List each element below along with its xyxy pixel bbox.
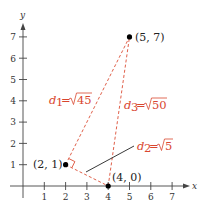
d2-leader-line — [86, 146, 134, 172]
svg-text:4: 4 — [10, 96, 16, 106]
svg-text:1: 1 — [41, 192, 47, 202]
point-5-7 — [127, 34, 132, 39]
distance-diagram: x y 1 2 3 4 5 6 7 1 2 3 4 5 6 7 — [0, 0, 201, 211]
y-axis-label: y — [19, 10, 26, 20]
svg-text:6: 6 — [148, 192, 154, 202]
svg-text:3: 3 — [10, 117, 16, 127]
x-axis-arrow-icon — [183, 184, 190, 189]
svg-text:3: 3 — [84, 192, 90, 202]
y-axis-arrow-icon — [21, 23, 26, 30]
point-2-1 — [63, 162, 68, 167]
svg-text:6: 6 — [10, 54, 16, 64]
axes — [10, 27, 186, 198]
x-axis-label: x — [192, 181, 197, 191]
point-label-5-7: (5, 7) — [135, 31, 165, 44]
svg-text:50: 50 — [152, 98, 167, 112]
svg-text:=: = — [61, 93, 71, 107]
distance-segments — [66, 37, 130, 186]
point-label-4-0: (4, 0) — [112, 171, 142, 184]
point-label-2-1: (2, 1) — [33, 158, 63, 171]
svg-text:5: 5 — [165, 139, 172, 153]
svg-text:1: 1 — [10, 160, 16, 170]
svg-text:7: 7 — [10, 32, 16, 42]
svg-text:7: 7 — [169, 192, 175, 202]
svg-text:45: 45 — [77, 93, 92, 107]
svg-text:5: 5 — [127, 192, 133, 202]
y-tick-labels: 1 2 3 4 5 6 7 — [10, 32, 16, 170]
svg-text:=: = — [149, 139, 159, 153]
x-tick-labels: 1 2 3 4 5 6 7 — [41, 192, 175, 202]
svg-text:4: 4 — [105, 192, 111, 202]
svg-text:=: = — [136, 98, 146, 112]
d3-label: d 3 = 50 — [124, 98, 167, 114]
d2-label: d 2 = 5 — [137, 139, 173, 155]
d1-label: d 1 = 45 — [49, 93, 92, 109]
svg-text:2: 2 — [63, 192, 69, 202]
svg-text:5: 5 — [10, 75, 16, 85]
svg-text:2: 2 — [10, 139, 16, 149]
point-4-0 — [106, 183, 111, 188]
right-angle-marker-icon — [69, 159, 75, 168]
